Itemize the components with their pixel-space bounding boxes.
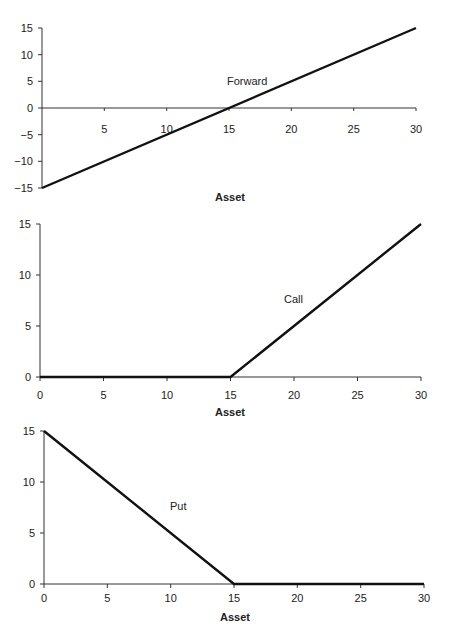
call-payoff-line (40, 224, 421, 377)
series-label-forward: Forward (227, 75, 267, 87)
x-axis-title: Asset (215, 191, 245, 203)
call-payoff-chart: 15 10 5 0 0 5 10 15 20 25 30 Call Asset (0, 210, 452, 420)
x-tick-label: 0 (37, 389, 43, 401)
x-tick-label: 5 (100, 389, 106, 401)
y-tick-label: 15 (21, 22, 33, 34)
x-tick-label: 5 (101, 123, 107, 135)
y-tick-label: −10 (14, 155, 33, 167)
y-tick-label: −15 (14, 182, 33, 194)
x-tick-label: 25 (351, 389, 363, 401)
x-tick-label: 15 (224, 389, 236, 401)
forward-payoff-chart: 15 10 5 0 −5 −10 −15 5 10 15 20 25 30 Fo… (0, 0, 452, 210)
x-tick-label: 20 (288, 389, 300, 401)
x-tick-label: 20 (291, 592, 303, 604)
x-axis-title: Asset (220, 611, 250, 623)
y-tick-label: 10 (19, 269, 31, 281)
y-tick-label: 0 (29, 578, 35, 590)
put-payoff-line (44, 431, 424, 584)
x-tick-label: 30 (418, 592, 430, 604)
x-tick-label: 25 (348, 123, 360, 135)
x-axis: 0 5 10 15 20 25 30 (41, 584, 430, 604)
x-tick-label: 15 (228, 592, 240, 604)
x-tick-label: 20 (285, 123, 297, 135)
y-axis: 15 10 5 0 (23, 425, 44, 590)
y-tick-label: 10 (23, 476, 35, 488)
put-payoff-chart: 15 10 5 0 0 5 10 15 20 25 30 Put Asset (0, 420, 452, 640)
x-tick-label: 15 (223, 123, 235, 135)
y-axis: 15 10 5 0 (19, 218, 40, 383)
y-axis: 15 10 5 0 −5 −10 −15 (14, 22, 42, 194)
x-tick-label: 30 (415, 389, 427, 401)
series-label-put: Put (170, 500, 187, 512)
y-tick-label: 0 (27, 102, 33, 114)
x-tick-label: 25 (355, 592, 367, 604)
y-tick-label: 5 (29, 527, 35, 539)
y-tick-label: 5 (27, 75, 33, 87)
series-label-call: Call (284, 293, 303, 305)
x-tick-label: 0 (41, 592, 47, 604)
y-tick-label: 10 (21, 49, 33, 61)
x-axis: 5 10 15 20 25 30 (42, 108, 422, 135)
x-axis-title: Asset (215, 406, 245, 418)
x-tick-label: 10 (161, 389, 173, 401)
y-tick-label: 15 (23, 425, 35, 437)
x-tick-label: 10 (165, 592, 177, 604)
x-tick-label: 5 (104, 592, 110, 604)
x-tick-label: 30 (410, 123, 422, 135)
y-tick-label: 0 (25, 371, 31, 383)
y-tick-label: −5 (20, 129, 33, 141)
y-tick-label: 15 (19, 218, 31, 230)
x-axis: 0 5 10 15 20 25 30 (37, 377, 427, 401)
y-tick-label: 5 (25, 320, 31, 332)
